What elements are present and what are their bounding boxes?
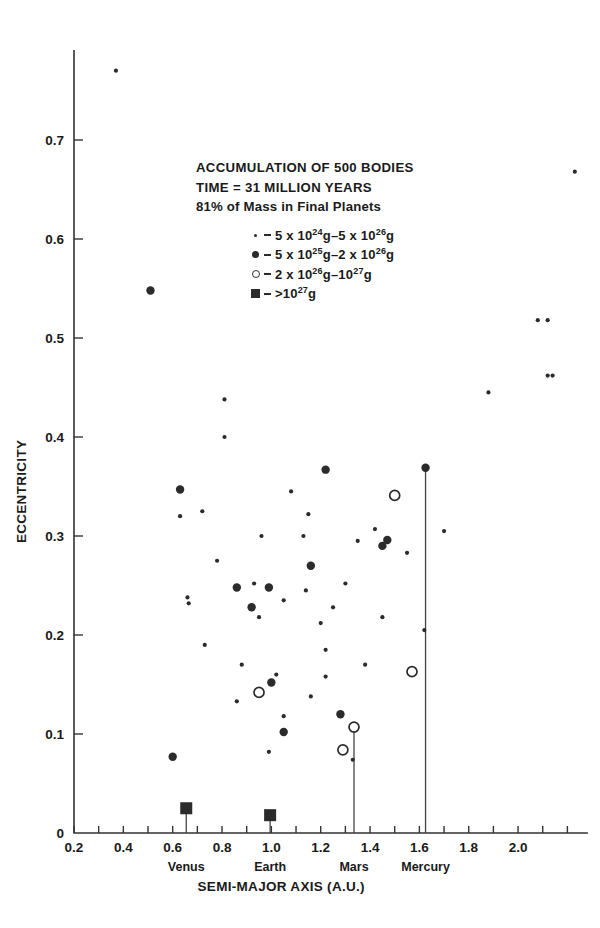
data-point-filled	[200, 509, 204, 513]
data-point-filled	[331, 605, 335, 609]
data-point-filled	[222, 397, 226, 401]
x-tick-label: 0.6	[163, 840, 182, 855]
annotation-line-1: ACCUMULATION OF 500 BODIES	[196, 158, 526, 178]
y-tick-label: 0.7	[45, 133, 64, 148]
dot-icon	[252, 251, 259, 258]
data-point-filled	[215, 559, 219, 563]
y-tick-label: 0	[56, 826, 64, 841]
x-tick-label: 1.0	[262, 840, 281, 855]
annotation-line-2: TIME = 31 MILLION YEARS	[196, 178, 526, 198]
data-point-filled	[282, 714, 286, 718]
data-point-filled	[421, 463, 429, 471]
annotation-line-3: 81% of Mass in Final Planets	[196, 197, 526, 217]
data-point-filled	[233, 583, 241, 591]
y-tick-label: 0.3	[45, 529, 64, 544]
data-point-filled	[267, 750, 271, 754]
data-point-filled	[304, 588, 308, 592]
data-point-filled	[176, 485, 184, 493]
legend-label: 5 x 1024g–5 x 1026g	[275, 228, 394, 243]
data-point-filled	[257, 615, 261, 619]
data-point-filled	[178, 514, 182, 518]
planet-label-earth: Earth	[254, 860, 286, 874]
filled-square-icon	[251, 289, 260, 298]
legend-dash-icon	[264, 234, 271, 236]
legend-marker-open-circle-icon	[248, 270, 263, 278]
data-point-filled	[259, 534, 263, 538]
legend-marker-filled-square-icon	[248, 289, 263, 298]
data-point-filled	[422, 628, 426, 632]
data-point-filled	[235, 699, 239, 703]
x-tick-label: 1.6	[410, 840, 429, 855]
x-tick-label: 0.2	[65, 840, 84, 855]
data-point-square	[180, 802, 192, 814]
data-point-filled	[351, 758, 355, 762]
legend-row: >1027g	[248, 284, 526, 304]
data-point-filled	[343, 581, 347, 585]
planet-label-venus: Venus	[168, 860, 205, 874]
data-point-open	[254, 687, 264, 697]
data-point-open	[407, 667, 417, 677]
data-point-filled	[267, 678, 275, 686]
data-point-filled	[222, 435, 226, 439]
legend-dash-icon	[264, 273, 271, 275]
data-point-filled	[336, 710, 344, 718]
data-point-filled	[550, 374, 554, 378]
data-point-filled	[306, 512, 310, 516]
x-tick-label: 0.4	[114, 840, 133, 855]
data-point-filled	[573, 170, 577, 174]
data-point-filled	[279, 728, 287, 736]
legend-dash-icon	[264, 254, 271, 256]
y-tick-label: 0.6	[45, 232, 64, 247]
data-point-open	[349, 722, 359, 732]
data-point-filled	[309, 694, 313, 698]
x-tick-label: 1.4	[361, 840, 380, 855]
legend-dash-icon	[264, 293, 271, 295]
data-point-filled	[383, 536, 391, 544]
legend: 5 x 1024g–5 x 1026g5 x 1025g–2 x 1026g2 …	[248, 226, 526, 304]
data-point-filled	[114, 69, 118, 73]
planet-reference-lines	[186, 468, 425, 833]
y-axis-title: ECCENTRICITY	[14, 440, 29, 543]
data-point-filled	[486, 390, 490, 394]
data-point-filled	[536, 318, 540, 322]
data-point-filled	[307, 562, 315, 570]
data-point-filled	[185, 595, 189, 599]
x-tick-label: 0.8	[213, 840, 232, 855]
data-point-filled	[203, 643, 207, 647]
data-point-filled	[373, 527, 377, 531]
data-point-filled	[363, 663, 367, 667]
data-point-filled	[301, 534, 305, 538]
data-point-filled	[282, 598, 286, 602]
legend-label: >1027g	[275, 286, 316, 301]
y-tick-label: 0.1	[45, 727, 64, 742]
data-point-filled	[168, 753, 176, 761]
y-tick-label: 0.4	[45, 430, 64, 445]
data-point-filled	[546, 374, 550, 378]
data-point-open	[390, 490, 400, 500]
data-point-filled	[240, 663, 244, 667]
y-tick-label: 0.2	[45, 628, 64, 643]
y-tick-label: 0.5	[45, 331, 64, 346]
data-point-filled	[274, 673, 278, 677]
data-point-filled	[321, 465, 329, 473]
data-point-filled	[324, 674, 328, 678]
planet-label-mercury: Mercury	[401, 860, 450, 874]
data-point-filled	[289, 489, 293, 493]
x-axis-title: SEMI-MAJOR AXIS (A.U.)	[198, 879, 365, 894]
tiny-dot-icon	[254, 234, 258, 238]
legend-marker-tiny-dot-icon	[248, 234, 263, 238]
data-point-filled	[319, 621, 323, 625]
data-point-filled	[146, 286, 154, 294]
legend-row: 5 x 1024g–5 x 1026g	[248, 226, 526, 246]
chart-figure: 0.20.40.60.81.01.21.41.61.82.000.10.20.3…	[0, 0, 600, 928]
legend-label: 5 x 1025g–2 x 1026g	[275, 247, 394, 262]
legend-row: 5 x 1025g–2 x 1026g	[248, 245, 526, 265]
data-point-filled	[187, 601, 191, 605]
data-point-filled	[324, 648, 328, 652]
legend-label: 2 x 1026g–1027g	[275, 267, 372, 282]
open-circle-icon	[252, 270, 260, 278]
data-point-filled	[380, 615, 384, 619]
data-point-open	[338, 745, 348, 755]
data-point-filled	[442, 529, 446, 533]
legend-marker-dot-icon	[248, 251, 263, 258]
